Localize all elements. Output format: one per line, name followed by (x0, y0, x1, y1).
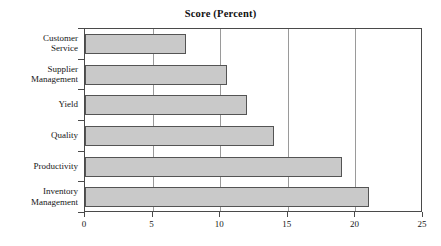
x-axis-tick (219, 212, 220, 217)
x-axis-tick-label: 15 (272, 219, 302, 229)
y-axis-label-line: Service (6, 43, 78, 54)
bar (85, 157, 342, 177)
bar (85, 126, 274, 146)
bar-row (85, 152, 421, 183)
bar-row (85, 182, 421, 213)
y-axis-label-line: Productivity (6, 161, 78, 172)
x-axis-tick (287, 212, 288, 217)
bar (85, 95, 247, 115)
y-axis-label: Quality (6, 130, 78, 141)
bar-row (85, 60, 421, 91)
y-axis-label-line: Management (6, 197, 78, 208)
x-axis-tick (84, 212, 85, 217)
y-axis-tick (78, 181, 84, 182)
y-axis-label-line: Yield (6, 99, 78, 110)
x-axis-tick-label: 0 (69, 219, 99, 229)
y-axis-tick (78, 59, 84, 60)
y-axis-label: SupplierManagement (6, 64, 78, 85)
x-axis-tick-label: 20 (339, 219, 369, 229)
chart-title: Score (Percent) (0, 8, 441, 19)
bar (85, 187, 369, 207)
plot-area (84, 28, 422, 212)
x-axis-tick (152, 212, 153, 217)
bar-row (85, 29, 421, 60)
x-axis-tick-label: 10 (204, 219, 234, 229)
bar (85, 34, 186, 54)
y-axis-tick (78, 28, 84, 29)
y-axis-label: Yield (6, 99, 78, 110)
y-axis-label-line: Management (6, 74, 78, 85)
y-axis-label-line: Quality (6, 130, 78, 141)
x-axis-tick (422, 212, 423, 217)
y-axis-tick (78, 89, 84, 90)
bar-chart: Score (Percent) CustomerServiceSupplierM… (0, 0, 441, 246)
x-axis-tick (354, 212, 355, 217)
bar-row (85, 90, 421, 121)
y-axis-label-line: Supplier (6, 64, 78, 75)
bar (85, 65, 227, 85)
y-axis-tick (78, 151, 84, 152)
y-axis-label-line: Customer (6, 33, 78, 44)
y-axis-tick (78, 120, 84, 121)
y-axis-label-line: Inventory (6, 186, 78, 197)
y-axis-label: Productivity (6, 161, 78, 172)
x-axis-tick-label: 25 (407, 219, 437, 229)
x-axis-tick-label: 5 (137, 219, 167, 229)
y-axis-label: CustomerService (6, 33, 78, 54)
y-axis-label: InventoryManagement (6, 186, 78, 207)
bar-row (85, 121, 421, 152)
